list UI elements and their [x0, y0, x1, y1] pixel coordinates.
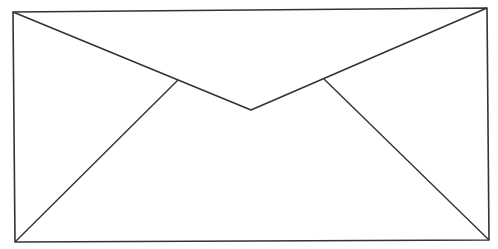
envelope-icon [0, 0, 498, 249]
envelope-body [13, 8, 489, 242]
